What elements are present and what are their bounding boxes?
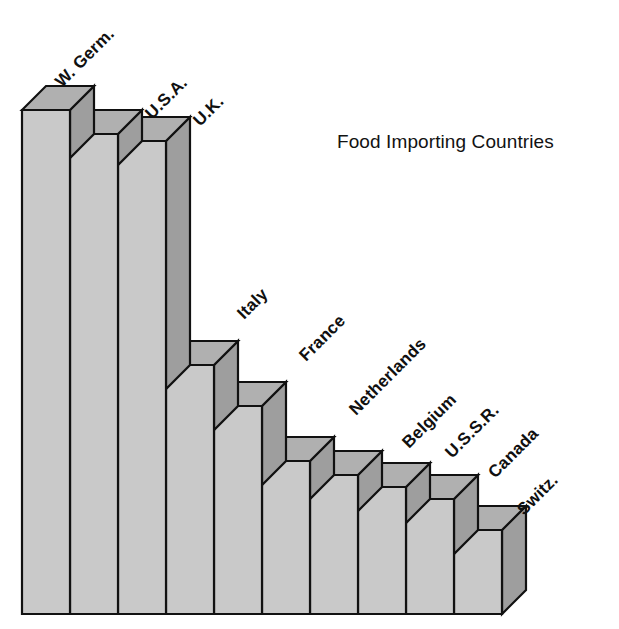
food-importing-countries-chart: W. Germ. U.S.A. U.K. Italy France Nether… [0, 0, 619, 629]
bar-uk-front [118, 141, 166, 614]
bar-italy-front [166, 365, 214, 614]
bar-belgium-front [310, 475, 358, 614]
bar-usa-front [70, 134, 118, 614]
bar-w-germ-front [22, 110, 70, 614]
bar-uk-side [166, 117, 190, 389]
bar-netherlands-front [262, 461, 310, 614]
chart-title: Food Importing Countries [337, 131, 554, 152]
bar-chart-svg: W. Germ. U.S.A. U.K. Italy France Nether… [0, 0, 619, 629]
bar-france-front [214, 406, 262, 614]
bar-ussr-front [358, 487, 406, 614]
